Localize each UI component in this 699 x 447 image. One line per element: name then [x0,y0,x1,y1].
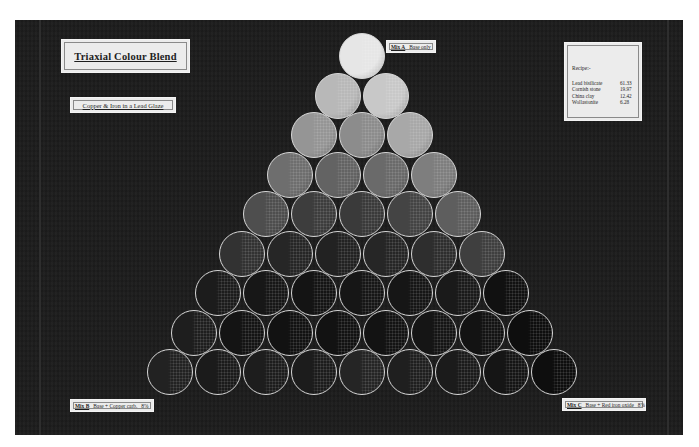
tile-texture [460,311,504,355]
tile-texture [388,350,432,394]
subtitle-card: Copper & Iron in a Lead Glaze [70,97,176,113]
glaze-test-tile [291,191,337,237]
glaze-test-tile [339,270,385,316]
tile-texture [268,153,312,197]
title-card: Triaxial Colour Blend [61,39,190,73]
tile-texture [412,153,456,197]
tile-texture [316,153,360,197]
recipe-card: Recipe:- Lead bisilicate 61.33 Cornish s… [564,42,642,121]
tile-texture [268,311,312,355]
glaze-test-tile [171,310,217,356]
glaze-test-tile [411,231,457,277]
ingredient-value: 6.28 [620,99,629,105]
tile-texture [340,271,384,315]
tile-texture [532,350,576,394]
subtitle: Copper & Iron in a Lead Glaze [83,102,164,109]
glaze-test-tile [387,349,433,395]
glaze-test-tile [363,73,409,119]
tile-texture [316,311,360,355]
glaze-test-tile [387,112,433,158]
glaze-test-tile [459,231,505,277]
board-edge-right [667,20,669,435]
mix-c-label: Mix C Base + Red iron oxide 8% [562,398,646,411]
tile-texture [340,113,384,157]
glaze-test-tile [315,310,361,356]
tile-texture [436,271,480,315]
tile-texture [148,350,192,394]
mix-b-suffix: 8% [141,403,148,409]
tile-texture [460,232,504,276]
glaze-test-tile [315,152,361,198]
glaze-test-tile [435,191,481,237]
glaze-test-tile [339,349,385,395]
glaze-test-tile [483,270,529,316]
mix-b-desc: Base + Copper carb. [93,403,137,409]
glaze-test-tile [291,112,337,158]
glaze-test-tile [435,270,481,316]
tile-texture [436,192,480,236]
recipe-heading: Recipe:- [572,65,641,71]
tile-texture [364,153,408,197]
glaze-test-tile [195,349,241,395]
glaze-test-tile [363,310,409,356]
ingredient-name: Wollastonite [572,99,620,105]
glaze-test-tile [243,270,289,316]
glaze-test-tile [531,349,577,395]
glaze-test-tile [411,152,457,198]
mix-b-label: Mix B Base + Copper carb. 8% [70,399,154,412]
glaze-test-tile [267,152,313,198]
glaze-test-tile [435,349,481,395]
glaze-test-tile [267,231,313,277]
glaze-test-tile [243,349,289,395]
mix-c-desc: Base + Red iron oxide [586,402,634,408]
tile-texture [388,113,432,157]
tile-texture [484,271,528,315]
glaze-test-tile [219,231,265,277]
tile-texture [316,74,360,118]
glaze-test-tile [291,349,337,395]
tile-texture [508,311,552,355]
glaze-test-tile [387,270,433,316]
tile-texture [292,271,336,315]
tile-texture [364,311,408,355]
glaze-test-tile [363,231,409,277]
glaze-test-tile [219,310,265,356]
mix-c-suffix: 8% [638,402,645,408]
tile-texture [340,192,384,236]
glaze-test-tile [459,310,505,356]
glaze-test-tile [411,310,457,356]
mix-b-key: Mix B [75,403,89,409]
glaze-test-tile [147,349,193,395]
tile-texture [244,192,288,236]
page-title: Triaxial Colour Blend [74,51,176,62]
tile-texture [388,192,432,236]
tile-texture [220,311,264,355]
glaze-test-tile [339,33,385,79]
glaze-test-tile [483,349,529,395]
tile-texture [268,232,312,276]
tile-texture [172,311,216,355]
glaze-test-tile [339,191,385,237]
tile-texture [340,350,384,394]
board-edge-left [39,20,41,435]
tile-texture [364,74,408,118]
tile-texture [292,192,336,236]
mix-c-key: Mix C [567,402,582,408]
tile-texture [196,350,240,394]
glaze-test-tile [243,191,289,237]
tile-texture [364,232,408,276]
tile-texture [484,350,528,394]
mix-a-label: Mix A Base only [386,40,436,53]
tile-texture [436,350,480,394]
glaze-test-tile [315,231,361,277]
tile-texture [292,350,336,394]
glaze-test-tile [387,191,433,237]
tile-texture [244,350,288,394]
mix-a-desc: Base only [409,44,430,50]
tile-texture [196,271,240,315]
glaze-test-tile [363,152,409,198]
glaze-test-tile [315,73,361,119]
glaze-test-tile [507,310,553,356]
tile-texture [412,311,456,355]
glaze-test-tile [339,112,385,158]
